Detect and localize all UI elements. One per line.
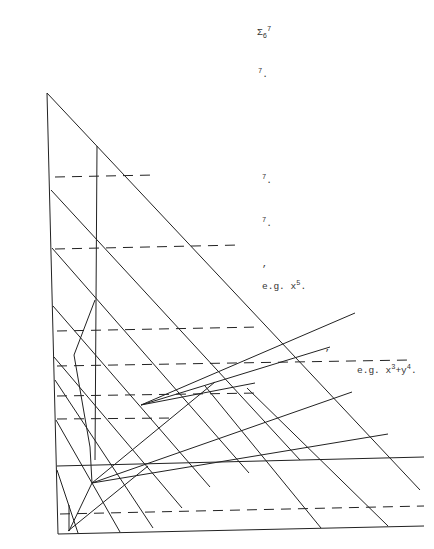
key-line-3: 7. — [258, 68, 268, 80]
stratification-diagram — [0, 0, 434, 549]
bottom-edge — [58, 526, 424, 534]
key-line-17: e.g. x3+y4. — [357, 364, 417, 376]
key-line-13: e.g. x5. — [262, 280, 306, 292]
key-line-8: 7. — [262, 174, 272, 186]
key-line-10: 7. — [262, 217, 272, 229]
key-line-12: , — [262, 259, 268, 269]
hypotenuse — [47, 93, 420, 490]
key-line-1: Σ67 — [257, 26, 271, 40]
key-line-16: , — [325, 343, 331, 353]
left-edge — [47, 93, 58, 534]
